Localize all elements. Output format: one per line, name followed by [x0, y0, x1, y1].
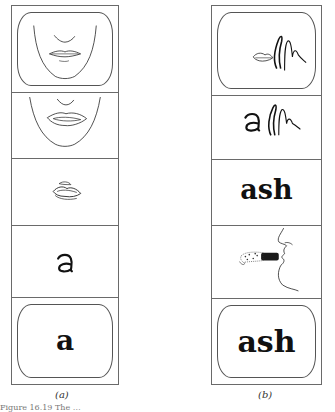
frame-b1-lips-hand [211, 5, 322, 96]
panel-label-a: (a) [55, 389, 69, 400]
frame-a2-lips [11, 93, 119, 159]
face-lips-closed-drawing [12, 6, 118, 92]
profile-face-breath-drawing [212, 226, 321, 298]
frame-b3-printed-word: ash [211, 160, 322, 226]
frame-a4-handwritten-letter [11, 226, 119, 298]
frame-b4-profile-breath [211, 226, 322, 299]
lips-and-hand-scribble-drawing [212, 6, 321, 95]
handwritten-letter-a [12, 226, 118, 297]
frame-b2-handwritten-with-scribble [211, 96, 322, 160]
lips-parted-drawing [12, 93, 118, 158]
frame-a3-scribble [11, 159, 119, 226]
frame-a5-printed-letter: a [11, 298, 119, 385]
figure-caption: Figure 16.19 The … [0, 403, 335, 412]
printed-word-ash: ash [212, 174, 321, 205]
lips-scribble-drawing [12, 159, 118, 225]
handwritten-letter-with-scribble [212, 96, 321, 159]
printed-word-ash-tv: ash [212, 324, 321, 359]
frame-b5-printed-word: ash [211, 299, 322, 385]
panel-label-b: (b) [258, 389, 272, 400]
frame-a1-face [11, 5, 119, 93]
printed-letter-a: a [12, 324, 118, 357]
